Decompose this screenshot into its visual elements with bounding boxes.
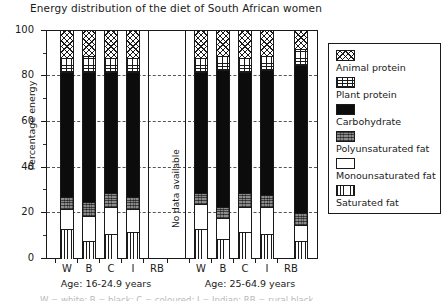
segment-animal-protein [295, 31, 307, 49]
segment-carbohydrate [61, 72, 73, 197]
segment-saturated-fat [195, 229, 207, 259]
segment-saturated-fat [239, 232, 251, 259]
segment-saturated-fat [105, 234, 117, 259]
animal-protein-swatch-icon [336, 50, 355, 61]
segment-carbohydrate [239, 72, 251, 193]
group-caption-2: Age: 25-64.9 years [186, 278, 314, 289]
y-tick-label-40: 40 [8, 161, 34, 172]
nodata-divider-left [148, 30, 149, 258]
segment-polyunsaturated-fat [195, 193, 207, 204]
x-label-g2-b: B [211, 263, 235, 274]
segment-plant-protein [217, 56, 229, 70]
segment-carbohydrate [127, 72, 139, 197]
y-axis-line [46, 30, 47, 259]
segment-monounsaturated-fat [105, 207, 117, 234]
y-tick-label-60: 60 [8, 115, 34, 126]
segment-carbohydrate [83, 72, 95, 202]
segment-plant-protein [295, 49, 307, 65]
y-tick-label-100: 100 [8, 24, 34, 35]
legend-label-plant-protein: Plant protein [336, 89, 397, 100]
segment-polyunsaturated-fat [261, 195, 273, 206]
segment-monounsaturated-fat [295, 225, 307, 241]
segment-monounsaturated-fat [61, 209, 73, 230]
x-label-g1-c: C [99, 263, 123, 274]
bar-g2-b[interactable] [216, 30, 230, 258]
bar-g1-c[interactable] [104, 30, 118, 258]
segment-plant-protein [127, 58, 139, 72]
x-label-g1-i: I [121, 263, 145, 274]
segment-monounsaturated-fat [217, 218, 229, 239]
y-tick-label-20: 20 [8, 206, 34, 217]
segment-animal-protein [61, 31, 73, 58]
segment-carbohydrate [195, 72, 207, 193]
segment-polyunsaturated-fat [295, 213, 307, 224]
bar-g1-i[interactable] [126, 30, 140, 258]
bar-g2-i[interactable] [260, 30, 274, 258]
segment-plant-protein [261, 56, 273, 70]
footnote: W = white; B = black; C = coloured; I = … [40, 295, 313, 301]
chart-title: Energy distribution of the diet of South… [26, 2, 326, 14]
segment-monounsaturated-fat [83, 216, 95, 241]
x-label-g1-rb: RB [144, 263, 170, 274]
segment-animal-protein [239, 31, 251, 58]
bar-g2-c[interactable] [238, 30, 252, 258]
segment-polyunsaturated-fat [105, 193, 117, 207]
saturated-fat-swatch-icon [336, 185, 355, 196]
segment-polyunsaturated-fat [83, 202, 95, 216]
legend-label-carbohydrate: Carbohydrate [336, 116, 401, 127]
segment-plant-protein [83, 56, 95, 72]
carbohydrate-swatch-icon [336, 104, 355, 115]
segment-carbohydrate [295, 65, 307, 213]
nodata-divider-right [185, 30, 186, 258]
monounsaturated-fat-swatch-icon [336, 158, 355, 169]
legend-label-saturated-fat: Saturated fat [336, 197, 399, 208]
segment-animal-protein [261, 31, 273, 56]
segment-saturated-fat [83, 241, 95, 259]
polyunsaturated-fat-swatch-icon [336, 131, 355, 142]
segment-saturated-fat [127, 232, 139, 259]
segment-saturated-fat [217, 239, 229, 260]
bar-g1-w[interactable] [60, 30, 74, 258]
plant-protein-swatch-icon [336, 77, 355, 88]
x-label-g1-w: W [55, 263, 79, 274]
segment-animal-protein [127, 31, 139, 58]
bar-g2-rb[interactable] [294, 30, 308, 258]
segment-carbohydrate [217, 70, 229, 207]
segment-animal-protein [217, 31, 229, 56]
segment-plant-protein [105, 58, 117, 72]
y-tick-label-80: 80 [8, 69, 34, 80]
segment-carbohydrate [261, 70, 273, 195]
plot-right-line [317, 30, 318, 259]
x-label-g2-w: W [189, 263, 213, 274]
legend-label-polyunsaturated-fat: Polyunsaturated fat [336, 143, 429, 154]
segment-animal-protein [105, 31, 117, 58]
segment-polyunsaturated-fat [217, 207, 229, 218]
segment-saturated-fat [61, 229, 73, 259]
bar-g1-b[interactable] [82, 30, 96, 258]
segment-plant-protein [195, 58, 207, 72]
x-label-g1-b: B [77, 263, 101, 274]
segment-animal-protein [83, 31, 95, 56]
legend-label-animal-protein: Animal protein [336, 62, 406, 73]
segment-polyunsaturated-fat [127, 197, 139, 208]
bar-g2-w[interactable] [194, 30, 208, 258]
segment-saturated-fat [295, 241, 307, 259]
segment-animal-protein [195, 31, 207, 58]
segment-monounsaturated-fat [261, 207, 273, 234]
segment-monounsaturated-fat [127, 209, 139, 232]
segment-saturated-fat [261, 234, 273, 259]
x-label-g2-c: C [233, 263, 257, 274]
segment-plant-protein [239, 58, 251, 72]
segment-monounsaturated-fat [239, 207, 251, 232]
x-label-g2-rb: RB [278, 263, 304, 274]
legend: Animal protein Plant protein Carbohydrat… [328, 43, 441, 214]
group-caption-1: Age: 16-24.9 years [46, 278, 166, 289]
x-label-g2-i: I [255, 263, 279, 274]
no-data-label: No data available [171, 149, 181, 228]
segment-polyunsaturated-fat [61, 197, 73, 208]
segment-plant-protein [61, 58, 73, 72]
segment-monounsaturated-fat [195, 204, 207, 229]
legend-label-monounsaturated-fat: Monounsaturated fat [336, 170, 436, 181]
segment-carbohydrate [105, 72, 117, 193]
